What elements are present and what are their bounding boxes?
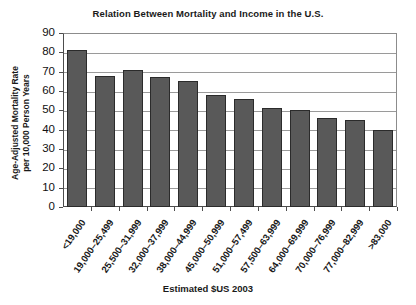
x-tick-mark: [174, 207, 175, 211]
x-tick-mark: [91, 207, 92, 211]
x-tick-mark: [341, 207, 342, 211]
x-axis-title: Estimated $US 2003: [0, 283, 416, 294]
x-tick-mark: [147, 207, 148, 211]
x-tick-mark: [286, 207, 287, 211]
x-tick-mark: [314, 207, 315, 211]
x-tick-mark: [258, 207, 259, 211]
x-axis-labels: <19,00019,000–25,49925,500–31,99932,000–…: [0, 0, 416, 305]
x-tick-mark: [202, 207, 203, 211]
mortality-income-bar-chart: Relation Between Mortality and Income in…: [0, 0, 416, 305]
x-tick-mark: [397, 207, 398, 211]
x-tick-mark: [369, 207, 370, 211]
x-tick-mark: [230, 207, 231, 211]
x-tick-mark: [119, 207, 120, 211]
